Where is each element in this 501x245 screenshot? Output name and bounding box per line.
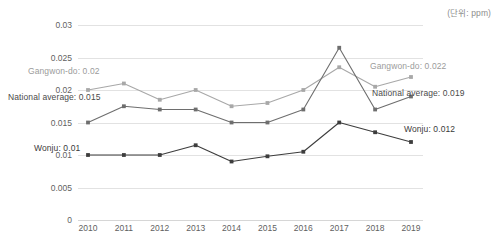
data-point-marker [230, 160, 234, 164]
unit-note: (단위: ppm) [447, 6, 491, 18]
data-point-marker [230, 121, 234, 125]
data-point-marker [122, 153, 126, 157]
x-tick-label: 2019 [402, 223, 421, 233]
data-point-marker [194, 108, 198, 112]
data-point-marker [86, 121, 90, 125]
data-point-marker [266, 154, 270, 158]
data-point-marker [158, 153, 162, 157]
data-point-marker [158, 98, 162, 102]
annotation-national-end: National average: 0.019 [372, 88, 465, 98]
data-point-marker [122, 82, 126, 86]
data-point-marker [373, 130, 377, 134]
y-tick-label: 0.03 [2, 20, 72, 30]
x-tick-label: 2013 [186, 223, 205, 233]
data-point-marker [122, 104, 126, 108]
data-point-marker [301, 108, 305, 112]
y-tick-label: 0.025 [2, 53, 72, 63]
data-point-marker [158, 108, 162, 112]
data-point-marker [337, 65, 341, 69]
y-tick-label: 0.015 [2, 118, 72, 128]
annotation-wonju-end: Wonju: 0.012 [404, 124, 455, 134]
x-tick-label: 2018 [366, 223, 385, 233]
data-point-marker [337, 46, 341, 50]
data-point-marker [373, 108, 377, 112]
data-point-marker [409, 75, 413, 79]
x-tick-label: 2016 [294, 223, 313, 233]
x-tick-label: 2011 [115, 223, 133, 233]
line-chart: (단위: ppm) 00.0050.010.0150.020.0250.03 2… [0, 0, 501, 245]
x-tick-label: 2010 [79, 223, 98, 233]
annotation-national-start: National average: 0.015 [8, 92, 101, 102]
data-point-marker [266, 101, 270, 105]
series-line [88, 48, 411, 123]
data-point-marker [86, 153, 90, 157]
series-line [88, 123, 411, 162]
data-point-marker [230, 104, 234, 108]
data-point-marker [409, 140, 413, 144]
y-tick-label: 0.005 [2, 183, 72, 193]
data-point-marker [301, 88, 305, 92]
data-point-marker [266, 121, 270, 125]
annotation-gangwon-end: Gangwon-do: 0.022 [370, 61, 446, 71]
data-point-marker [337, 121, 341, 125]
series-line [88, 67, 411, 106]
gridline [78, 220, 423, 221]
x-tick-label: 2017 [330, 223, 349, 233]
annotation-gangwon-start: Gangwon-do: 0.02 [28, 66, 100, 76]
data-point-marker [194, 143, 198, 147]
data-point-marker [194, 88, 198, 92]
data-point-marker [301, 150, 305, 154]
x-tick-label: 2012 [150, 223, 169, 233]
x-tick-label: 2015 [258, 223, 277, 233]
series-layer [78, 25, 423, 220]
plot-area: 00.0050.010.0150.020.0250.03 20102011201… [78, 25, 423, 220]
annotation-wonju-start: Wonju: 0.01 [34, 143, 80, 153]
x-tick-label: 2014 [222, 223, 241, 233]
y-tick-label: 0 [2, 215, 72, 225]
